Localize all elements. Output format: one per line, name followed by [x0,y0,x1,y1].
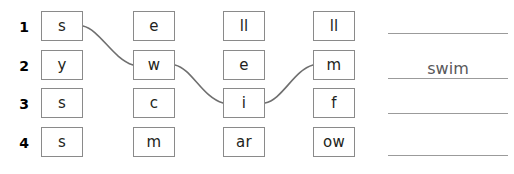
answer-slot-1[interactable] [388,4,508,34]
answer-slot-3[interactable] [388,84,508,114]
row-number-2: 2 [16,59,32,73]
tile-row4-col1[interactable]: s [41,127,83,157]
tile-row3-col4[interactable]: f [313,88,355,118]
tile-row4-col4[interactable]: ow [313,127,355,157]
tile-row1-col4[interactable]: ll [313,11,355,41]
connector-i-to-m-curve [265,65,313,103]
worksheet-canvas: 1 s e ll ll 2 y w e m 3 s c i f 4 s m ar… [0,0,514,174]
answer-rule-3 [388,113,508,114]
tile-row3-col1[interactable]: s [41,88,83,118]
tile-row1-col2[interactable]: e [133,11,175,41]
tile-row4-col3[interactable]: ar [223,127,265,157]
tile-row3-col2[interactable]: c [133,88,175,118]
answer-rule-4 [388,155,508,156]
tile-row4-col2[interactable]: m [133,127,175,157]
connector-s-to-w-curve [83,26,133,65]
row-number-4: 4 [16,136,32,150]
tile-row2-col4[interactable]: m [313,50,355,80]
tile-row2-col1[interactable]: y [41,50,83,80]
row-number-1: 1 [16,20,32,34]
answer-rule-2 [388,78,508,79]
answer-slot-2[interactable]: swim [388,49,508,79]
connector-w-to-i-curve [175,65,223,103]
answer-slot-4[interactable] [388,126,508,156]
answer-text-2: swim [388,61,508,77]
tile-row1-col1[interactable]: s [41,11,83,41]
tile-row3-col3[interactable]: i [223,88,265,118]
tile-row1-col3[interactable]: ll [223,11,265,41]
tile-row2-col3[interactable]: e [223,50,265,80]
row-number-3: 3 [16,97,32,111]
answer-rule-1 [388,33,508,34]
tile-row2-col2[interactable]: w [133,50,175,80]
